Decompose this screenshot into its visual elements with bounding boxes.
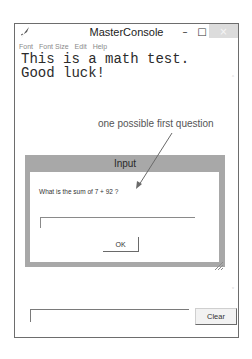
answer-input[interactable] <box>40 217 195 228</box>
minimize-button[interactable]: – <box>178 24 192 38</box>
clear-button[interactable]: Clear <box>195 308 237 325</box>
ok-button[interactable]: OK <box>103 237 139 252</box>
maximize-button[interactable]: □ <box>195 24 209 38</box>
scroll-up-arrow-icon[interactable]: ˄ <box>229 74 237 82</box>
annotation-label: one possible first question <box>98 118 214 129</box>
title-bar[interactable]: MasterConsole – □ × <box>15 24 238 41</box>
dialog-title: Input <box>25 158 225 169</box>
dialog-body: What is the sum of 7 + 92 ? OK <box>30 172 219 262</box>
scroll-down-arrow-icon[interactable]: ˅ <box>229 286 237 294</box>
console-output: This is a math test. Good luck! <box>21 52 189 80</box>
console-line: Good luck! <box>21 65 105 81</box>
dialog-question: What is the sum of 7 + 92 ? <box>39 188 118 195</box>
resize-grip-icon[interactable] <box>214 256 224 266</box>
input-dialog: Input What is the sum of 7 + 92 ? OK <box>25 155 225 267</box>
close-button[interactable]: × <box>209 24 238 38</box>
command-input[interactable] <box>30 309 189 322</box>
